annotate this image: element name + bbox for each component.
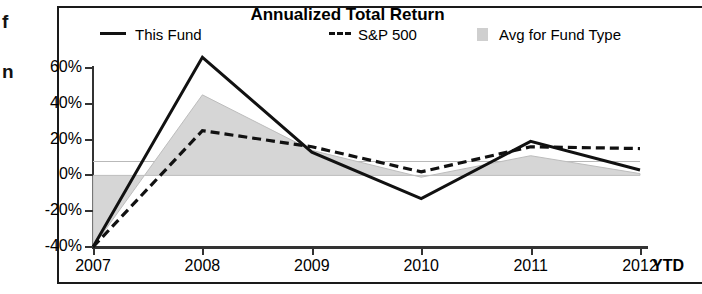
y-axis-tick-label: -20% (20, 201, 82, 219)
y-axis-tick-label: 40% (20, 94, 82, 112)
x-axis-tick (312, 249, 314, 255)
legend-item-this-fund: This Fund (100, 26, 202, 43)
y-axis-labels: 60%40%20%0%-20%-40% (14, 0, 82, 294)
chart-title: Annualized Total Return (0, 5, 695, 25)
x-axis-tick-label: 2008 (167, 257, 237, 275)
y-axis-tick (85, 67, 93, 69)
x-axis-tick-label: 2009 (277, 257, 347, 275)
plot-area (93, 68, 640, 247)
x-axis-tick (202, 249, 204, 255)
legend-label-avg-fund-type: Avg for Fund Type (499, 26, 621, 43)
gray-swatch-key-icon (477, 28, 488, 41)
x-axis-tick (93, 249, 95, 255)
x-axis-tick (640, 249, 642, 255)
dashed-line-key-icon (329, 32, 351, 35)
y-axis-tick-label: 20% (20, 130, 82, 148)
x-axis-ytd-label: YTD (652, 257, 684, 275)
y-axis-tick (85, 210, 93, 212)
legend-label-sp500: S&P 500 (358, 26, 417, 43)
x-axis-tick (531, 249, 533, 255)
y-axis-tick (85, 103, 93, 105)
chart-legend: This Fund S&P 500 Avg for Fund Type (0, 26, 695, 52)
clipped-margin-glyph-bottom: n (2, 62, 14, 81)
x-axis-tick-label: 2010 (386, 257, 456, 275)
series-svg (93, 68, 640, 247)
series-area-avg-for-fund-type (93, 95, 640, 247)
y-axis-tick-label: 60% (20, 58, 82, 76)
solid-line-key-icon (100, 32, 126, 35)
y-axis-tick-label: -40% (20, 237, 82, 255)
legend-item-sp500: S&P 500 (329, 26, 417, 43)
y-axis-tick (85, 174, 93, 176)
legend-item-avg-fund-type: Avg for Fund Type (477, 26, 621, 43)
y-axis-tick-label: 0% (20, 165, 82, 183)
x-axis-tick-label: 2011 (496, 257, 566, 275)
x-axis-tick (421, 249, 423, 255)
legend-label-this-fund: This Fund (135, 26, 202, 43)
y-axis-tick (85, 139, 93, 141)
y-axis-tick (85, 246, 93, 248)
x-axis-tick-label: 2007 (58, 257, 128, 275)
